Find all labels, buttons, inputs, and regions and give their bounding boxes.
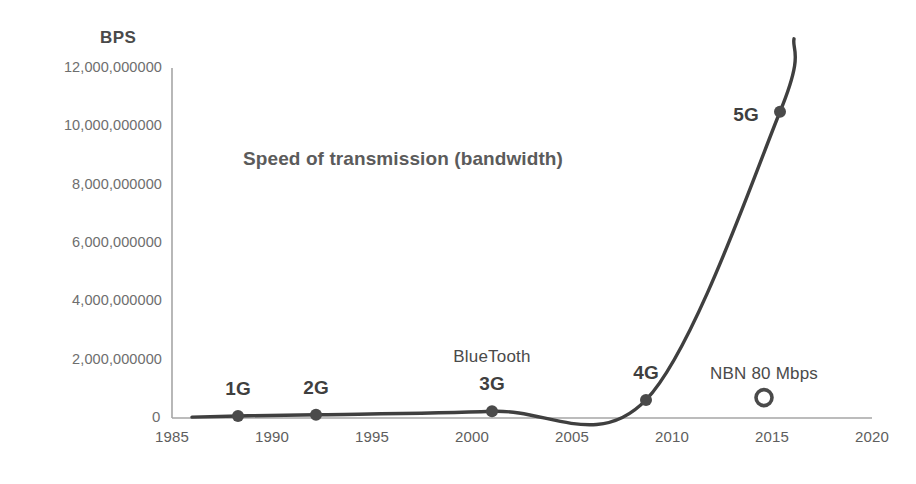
- nbn-hollow-marker: [756, 390, 772, 406]
- bandwidth-chart: BPS Speed of transmission (bandwidth) 2,…: [0, 0, 916, 484]
- annotation-label-1g: 1G: [225, 378, 251, 400]
- data-point-marker: [232, 410, 244, 422]
- data-point-marker: [774, 106, 786, 118]
- plot-area: [0, 0, 916, 484]
- data-point-marker: [486, 405, 498, 417]
- data-point-marker: [310, 409, 322, 421]
- annotation-label-2g: 2G: [303, 377, 329, 399]
- annotation-label-4g: 4G: [633, 362, 659, 384]
- annotation-label-3g: 3G: [479, 373, 505, 395]
- annotation-label-nbn-80-mbps: NBN 80 Mbps: [710, 364, 818, 384]
- annotation-label-bluetooth: BlueTooth: [453, 347, 530, 367]
- annotation-label-5g: 5G: [733, 104, 759, 126]
- data-marker-layer: [232, 106, 786, 422]
- data-point-marker: [640, 394, 652, 406]
